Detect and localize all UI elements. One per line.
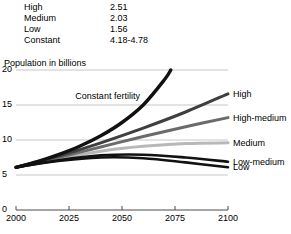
population-projection-chart: High 2.51 Medium 2.03 Low 1.56 Constant … — [0, 0, 291, 234]
x-axis-tick-label: 2025 — [52, 214, 86, 223]
x-axis-tick-label: 2050 — [105, 214, 139, 223]
y-axis-tick-label: 5 — [2, 170, 7, 179]
series-label-low: Low — [233, 163, 250, 172]
chart-annotation: Constant fertility — [75, 92, 140, 101]
y-axis-tick-label: 20 — [2, 65, 12, 74]
x-axis-tick-label: 2075 — [158, 214, 192, 223]
series-label-medium: Medium — [233, 139, 265, 148]
x-axis-tick-label: 2000 — [0, 214, 33, 223]
x-axis-tick-label: 2100 — [211, 214, 245, 223]
y-axis-tick-label: 10 — [2, 135, 12, 144]
series-label-high: High — [233, 90, 252, 99]
y-axis-tick-label: 15 — [2, 100, 12, 109]
series-label-high-medium: High-medium — [233, 114, 287, 123]
